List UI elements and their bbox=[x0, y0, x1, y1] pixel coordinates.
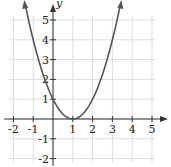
x-tick-label: 2 bbox=[89, 123, 96, 136]
curve-arrows bbox=[22, 0, 123, 9]
x-axis-arrow-icon bbox=[160, 116, 168, 122]
curve-arrow-right-icon bbox=[117, 0, 123, 9]
parabola-chart: -2-11234554321-1-2ty bbox=[0, 0, 171, 167]
y-tick-label: -1 bbox=[38, 133, 49, 146]
x-tick-label: -2 bbox=[8, 123, 19, 136]
x-tick-label: 5 bbox=[149, 123, 156, 136]
y-axis-label: y bbox=[55, 0, 63, 10]
x-tick-label: 3 bbox=[109, 123, 116, 136]
y-tick-label: -2 bbox=[38, 153, 49, 166]
curve-arrow-left-icon bbox=[22, 0, 28, 9]
x-tick-label: 1 bbox=[69, 123, 76, 136]
x-tick-label: -1 bbox=[28, 123, 39, 136]
tick-labels: -2-11234554321-1-2ty bbox=[8, 0, 171, 166]
y-tick-label: 5 bbox=[42, 14, 49, 27]
y-tick-label: 3 bbox=[42, 54, 49, 67]
y-tick-label: 4 bbox=[42, 34, 49, 47]
grid-lines bbox=[9, 16, 156, 163]
y-tick-label: 1 bbox=[42, 93, 49, 106]
axes bbox=[4, 4, 168, 166]
x-tick-label: 4 bbox=[129, 123, 136, 136]
